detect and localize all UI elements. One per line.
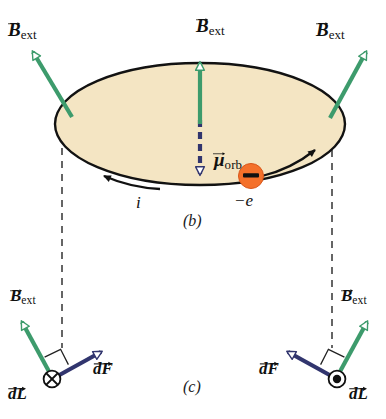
field-symbol: B [341, 286, 352, 305]
physics-figure: Bext Bext Bext μorb i −e [0, 0, 386, 419]
panel-label-b: (b) [183, 213, 202, 229]
length-symbol: dL [349, 384, 368, 403]
field-arrow-left [33, 52, 72, 117]
right-angle-marker-right [321, 349, 345, 364]
length-symbol: dL [8, 384, 27, 403]
field-subscript: ext [352, 294, 366, 307]
field-arrow-c-left [22, 322, 52, 377]
field-label-c-left: Bext [10, 287, 36, 306]
field-label-c-right: Bext [341, 287, 367, 306]
field-arrow-c-right [337, 322, 367, 377]
field-subscript: ext [21, 294, 35, 307]
field-subscript: ext [329, 27, 345, 42]
field-label-center: Bext [196, 16, 225, 38]
figure-vector-layer [0, 0, 386, 419]
electron-charge-label: −e [234, 192, 253, 209]
field-arrow-right [330, 52, 366, 118]
dot-center [333, 375, 341, 383]
length-label-c-left: dL [8, 385, 27, 402]
field-symbol: B [196, 15, 209, 36]
field-label-right: Bext [316, 20, 345, 42]
panel-label-c: (c) [183, 379, 201, 395]
field-symbol: B [10, 286, 21, 305]
field-label-left: Bext [8, 20, 37, 42]
force-label-c-left: dF [93, 360, 113, 377]
right-angle-marker-left [45, 349, 69, 364]
field-subscript: ext [209, 23, 225, 38]
magnetic-moment-label: μorb [214, 150, 242, 172]
electron-charge-bar [243, 173, 259, 177]
length-label-c-right: dL [349, 385, 368, 402]
field-subscript: ext [21, 27, 37, 42]
force-arrow-c-right [288, 352, 335, 378]
force-label-c-right: dF [259, 360, 279, 377]
force-symbol: dF [93, 359, 113, 378]
force-diagram-right [288, 322, 367, 387]
moment-symbol: μ [214, 149, 225, 170]
field-symbol: B [8, 19, 21, 40]
force-symbol: dF [259, 359, 279, 378]
current-label: i [136, 194, 141, 211]
field-symbol: B [316, 19, 329, 40]
moment-subscript: orb [225, 157, 243, 172]
